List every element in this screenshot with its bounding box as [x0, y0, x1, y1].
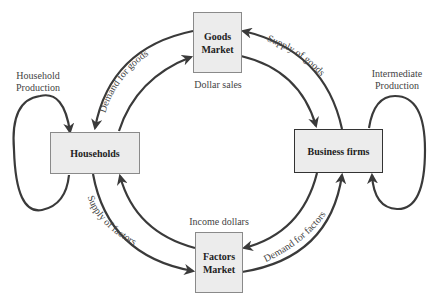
svg-text:Demand for goods: Demand for goods [97, 47, 150, 114]
arrow-demand-for-goods [95, 31, 193, 128]
label-demand-for-goods: Demand for goods [97, 47, 150, 114]
arrow-dollar-sales [241, 56, 316, 126]
household-production-line1: Household [8, 70, 68, 82]
label-dollar-sales: Dollar sales [190, 79, 246, 91]
factors-market-line1: Factors [203, 250, 235, 263]
goods-market-line2: Market [201, 43, 233, 56]
label-household-production: Household Production [8, 70, 68, 94]
factors-market-line2: Market [203, 263, 235, 276]
intermediate-production-line1: Intermediate [362, 68, 432, 80]
label-intermediate-production: Intermediate Production [362, 68, 432, 92]
household-production-line2: Production [8, 82, 68, 94]
households-label: Households [70, 147, 119, 160]
goods-market-line1: Goods [201, 30, 233, 43]
arrow-demand-for-factors [242, 175, 342, 272]
node-factors-market: FactorsMarket [195, 232, 243, 293]
node-households: Households [50, 132, 140, 174]
label-income-dollars: Income dollars [184, 216, 254, 228]
business-firms-label: Business firms [308, 145, 370, 158]
node-goods-market: GoodsMarket [193, 12, 242, 73]
node-business-firms: Business firms [294, 129, 383, 173]
intermediate-production-line2: Production [362, 80, 432, 92]
